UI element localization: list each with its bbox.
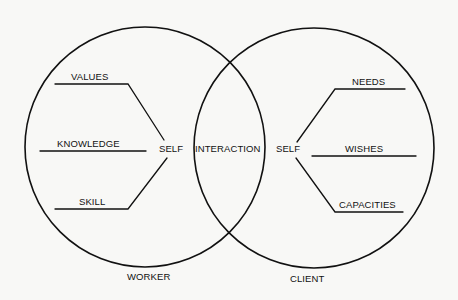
needs-connector-line [297, 89, 405, 142]
client-attribute-capacities: CAPACITIES [296, 158, 403, 212]
capacities-label: CAPACITIES [339, 199, 396, 210]
interaction-label: INTERACTION [195, 143, 261, 154]
values-connector-line [55, 84, 164, 140]
worker-attribute-skill: SKILL [55, 158, 167, 209]
client-caption: CLIENT [290, 273, 324, 284]
skill-connector-line [55, 158, 167, 209]
knowledge-label: KNOWLEDGE [57, 138, 120, 149]
needs-label: NEEDS [352, 76, 385, 87]
skill-label: SKILL [79, 196, 105, 207]
worker-self-label: SELF [159, 143, 183, 154]
values-label: VALUES [71, 71, 108, 82]
client-self-label: SELF [276, 143, 300, 154]
worker-attribute-knowledge: KNOWLEDGE [40, 138, 146, 151]
client-attribute-wishes: WISHES [312, 143, 416, 156]
client-attribute-needs: NEEDS [297, 76, 405, 142]
worker-client-interaction-diagram: VALUES KNOWLEDGE SKILL SELF INTERACTION … [0, 0, 458, 300]
worker-caption: WORKER [127, 271, 170, 282]
worker-attribute-values: VALUES [55, 71, 164, 140]
wishes-label: WISHES [345, 143, 383, 154]
